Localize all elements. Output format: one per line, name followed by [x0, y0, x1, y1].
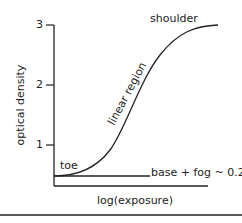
y-axis-label: optical density — [14, 64, 27, 145]
y-tick-label-1: 1 — [36, 138, 43, 151]
toe-label: toe — [60, 159, 78, 172]
y-tick-label-3: 3 — [36, 18, 43, 31]
x-axis-label: log(exposure) — [97, 194, 173, 207]
base-fog-label: base + fog ~ 0.2 OD — [151, 166, 242, 179]
y-tick-label-2: 2 — [36, 78, 43, 91]
characteristic-curve-diagram: 3 2 1 optical density toe linear region … — [0, 0, 242, 223]
characteristic-curve — [54, 25, 218, 176]
shoulder-label: shoulder — [150, 12, 198, 25]
